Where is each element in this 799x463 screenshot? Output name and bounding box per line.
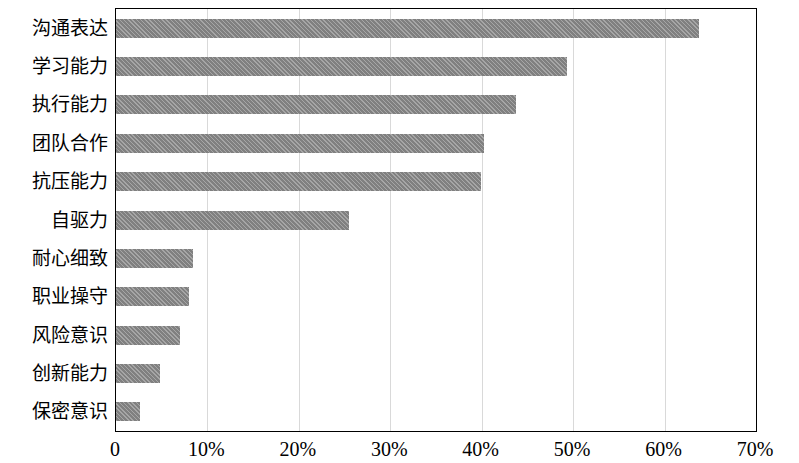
bar-row [116, 402, 756, 421]
category-label: 保密意识 [0, 402, 108, 421]
value-tick-label: 30% [371, 437, 408, 461]
category-label: 自驱力 [0, 211, 108, 230]
category-label: 执行能力 [0, 95, 108, 114]
bar-row [116, 211, 756, 230]
chart-page: 沟通表达学习能力执行能力团队合作抗压能力自驱力耐心细致职业操守风险意识创新能力保… [0, 0, 799, 463]
bar [116, 134, 484, 153]
bar-row [116, 364, 756, 383]
bar-row [116, 172, 756, 191]
value-axis-labels: 010%20%30%40%50%60%70% [115, 437, 757, 463]
bar [116, 364, 160, 383]
value-tick-label: 50% [554, 437, 591, 461]
bar-row [116, 19, 756, 38]
bar-series [116, 9, 756, 431]
bar-row [116, 287, 756, 306]
category-label: 耐心细致 [0, 249, 108, 268]
bar [116, 326, 180, 345]
value-tick-label: 70% [737, 437, 774, 461]
bar [116, 19, 699, 38]
category-label: 抗压能力 [0, 172, 108, 191]
category-label: 沟通表达 [0, 19, 108, 38]
value-tick-label: 40% [462, 437, 499, 461]
bar [116, 57, 567, 76]
category-label: 团队合作 [0, 134, 108, 153]
category-label: 职业操守 [0, 287, 108, 306]
bar [116, 402, 140, 421]
bar [116, 172, 481, 191]
plot-area [115, 8, 757, 432]
bar [116, 249, 193, 268]
bar [116, 287, 189, 306]
bar-row [116, 326, 756, 345]
bar-row [116, 134, 756, 153]
value-tick-label: 20% [280, 437, 317, 461]
category-label: 风险意识 [0, 326, 108, 345]
value-tick-label: 0 [110, 437, 120, 461]
bar [116, 95, 516, 114]
bar-row [116, 57, 756, 76]
category-label: 创新能力 [0, 364, 108, 383]
bar [116, 211, 349, 230]
value-tick-label: 10% [188, 437, 225, 461]
bar-row [116, 95, 756, 114]
bar-row [116, 249, 756, 268]
category-label: 学习能力 [0, 57, 108, 76]
value-tick-label: 60% [645, 437, 682, 461]
category-axis-labels: 沟通表达学习能力执行能力团队合作抗压能力自驱力耐心细致职业操守风险意识创新能力保… [0, 8, 108, 432]
